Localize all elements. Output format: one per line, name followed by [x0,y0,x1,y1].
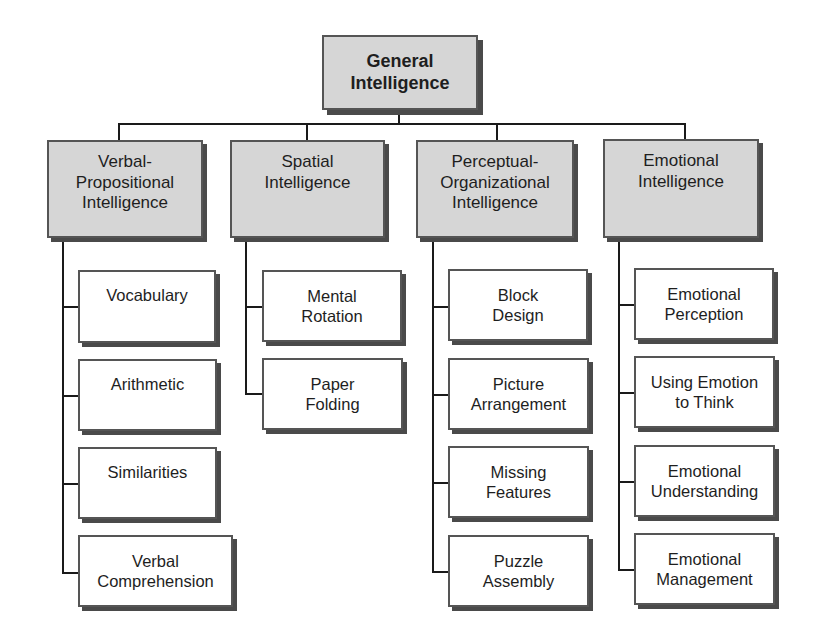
node-label: Comprehension [97,571,213,591]
node-label: Vocabulary [106,285,188,305]
node-label: Perceptual- [452,152,539,173]
connector-missing-features [432,482,448,484]
node-label: Management [656,569,752,589]
connector-category-bus [118,123,686,125]
connector-perceptual-trunk [432,238,434,573]
node-using-emotion-to-think: Using Emotion to Think [634,356,775,428]
node-label: Design [492,305,543,325]
connector-mental-rotation [245,306,262,308]
connector-block-design [432,306,448,308]
node-label: Block [498,285,538,305]
node-perceptual-organizational-intelligence: Perceptual- Organizational Intelligence [416,140,574,238]
node-label: Intelligence [452,193,538,214]
node-label: Similarities [108,462,188,482]
node-emotional-understanding: Emotional Understanding [634,445,775,517]
node-picture-arrangement: Picture Arrangement [448,358,589,430]
node-label: Perception [665,304,744,324]
node-label: Verbal [132,551,179,571]
node-label: Missing [491,462,547,482]
node-label: Organizational [440,173,550,194]
connector-emotional-management [618,569,634,571]
connector-verbal-trunk [62,238,64,574]
node-puzzle-assembly: Puzzle Assembly [448,535,589,607]
node-label: Intelligence [638,172,724,193]
node-paper-folding: Paper Folding [262,358,403,430]
connector-to-verbal [118,123,120,141]
node-label: Propositional [76,173,174,194]
node-label: Spatial [282,152,334,173]
node-label: Intelligence [82,193,168,214]
node-label: Verbal- [98,152,152,173]
node-emotional-intelligence: Emotional Intelligence [603,139,759,238]
node-emotional-management: Emotional Management [634,533,775,605]
node-label: Folding [305,394,359,414]
node-label: Emotional [667,284,740,304]
node-label: Intelligence [350,73,449,95]
node-label: Rotation [301,306,362,326]
node-block-design: Block Design [448,269,588,341]
node-label: Emotional [668,461,741,481]
node-label: to Think [675,392,733,412]
node-vocabulary: Vocabulary [78,270,216,343]
node-label: Arithmetic [111,374,184,394]
intelligence-hierarchy-diagram: General Intelligence Verbal- Proposition… [0,0,817,643]
connector-picture-arrangement [432,394,448,396]
connector-paper-folding [245,393,262,395]
node-missing-features: Missing Features [448,446,589,518]
connector-puzzle-assembly [432,571,448,573]
node-label: Picture [493,374,544,394]
connector-to-perceptual [496,123,498,141]
node-label: Intelligence [264,173,350,194]
node-general-intelligence: General Intelligence [322,35,478,110]
connector-spatial-trunk [245,238,247,395]
node-arithmetic: Arithmetic [78,359,217,431]
node-verbal-propositional-intelligence: Verbal- Propositional Intelligence [47,140,203,238]
node-label: Emotional [643,151,719,172]
node-label: Arrangement [471,394,566,414]
node-mental-rotation: Mental Rotation [262,270,402,342]
connector-using-emotion [618,392,634,394]
node-label: Using Emotion [651,372,758,392]
node-spatial-intelligence: Spatial Intelligence [230,140,385,238]
connector-root-down [398,110,400,124]
connector-emotional-trunk [618,238,620,571]
node-label: Puzzle [494,551,544,571]
node-label: Emotional [668,549,741,569]
node-emotional-perception: Emotional Perception [634,268,774,340]
connector-arithmetic [62,395,78,397]
node-label: Assembly [483,571,555,591]
connector-emotional-understanding [618,481,634,483]
node-label: Paper [310,374,354,394]
connector-vocabulary [62,306,78,308]
node-similarities: Similarities [78,447,217,519]
node-label: Features [486,482,551,502]
node-verbal-comprehension: Verbal Comprehension [78,535,233,607]
node-label: General [366,51,433,73]
connector-to-spatial [306,123,308,141]
connector-similarities [62,483,78,485]
node-label: Understanding [651,481,758,501]
connector-verbal-comprehension [62,572,78,574]
connector-emotional-perception [618,304,634,306]
node-label: Mental [307,286,357,306]
